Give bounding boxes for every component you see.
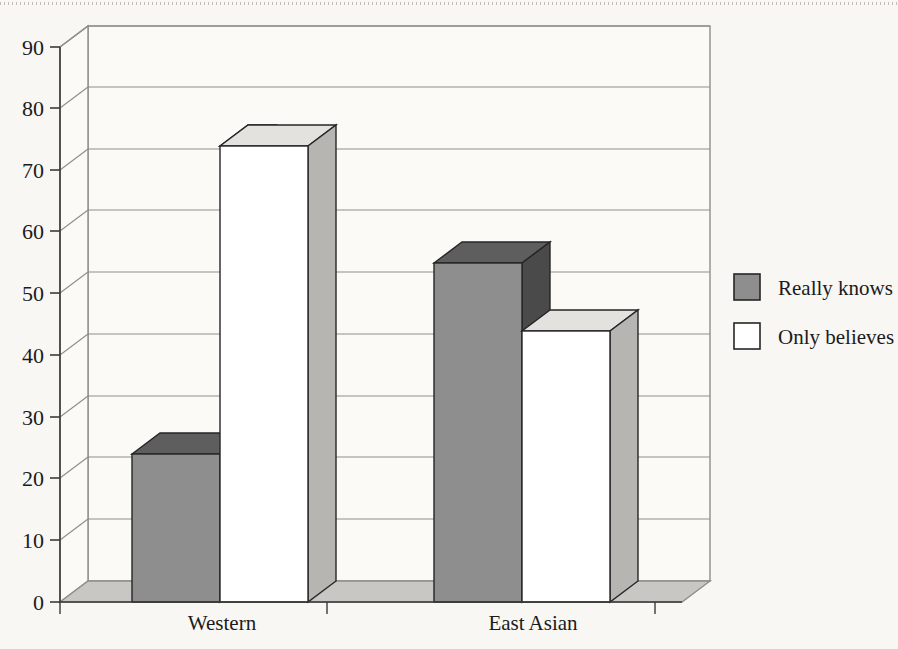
bar-front-face [522,331,610,602]
y-axis-tick-labels: 90 80 70 60 50 40 30 20 10 0 [22,35,44,615]
y-tick-label-10: 10 [22,528,44,553]
bar-front-face [220,146,308,602]
left-wall-panel [60,26,88,602]
bar-side-face [308,125,336,602]
y-tick-label-50: 50 [22,281,44,306]
y-tick-label-20: 20 [22,466,44,491]
bar-western-only-believes [220,125,336,602]
y-tick-label-70: 70 [22,158,44,183]
figure-page: 90 80 70 60 50 40 30 20 10 0 [0,0,898,649]
legend-swatch-only-believes [734,323,760,349]
y-tick-label-30: 30 [22,405,44,430]
x-axis-category-labels: Western East Asian [188,611,578,635]
bar-front-face [434,263,522,602]
y-tick-label-40: 40 [22,343,44,368]
bar-east-asian-only-believes [522,310,638,602]
chart-left-wall [60,26,88,602]
category-label-east-asian: East Asian [488,611,578,635]
y-tick-label-60: 60 [22,219,44,244]
y-axis-ticks [50,47,60,602]
category-label-western: Western [188,611,257,635]
bar-front-face [132,454,220,602]
bar-side-face [610,310,638,602]
legend-swatch-really-knows [734,274,760,300]
y-axis [50,47,60,602]
y-tick-label-0: 0 [33,590,44,615]
legend-label-only-believes: Only believes [778,325,894,349]
bar-chart-3d: 90 80 70 60 50 40 30 20 10 0 [0,0,898,649]
y-tick-label-80: 80 [22,96,44,121]
legend-label-really-knows: Really knows [778,276,893,300]
legend: Really knows Only believes [734,274,894,349]
x-axis [60,602,682,614]
y-tick-label-90: 90 [22,35,44,60]
